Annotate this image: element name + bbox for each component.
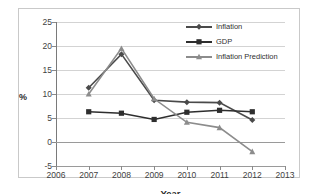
y-axis-tick-label: 25	[43, 17, 52, 27]
legend-marker-diamond-icon	[194, 22, 204, 31]
legend-label: Inflation	[216, 22, 242, 31]
legend-marker-triangle-icon	[194, 52, 204, 61]
x-axis-tick-label: 2009	[145, 170, 164, 180]
legend-key-icon	[186, 52, 212, 61]
data-point-marker	[119, 111, 124, 116]
data-point-marker	[217, 100, 223, 106]
data-point-marker	[217, 108, 222, 113]
x-axis-tick-label: 2007	[79, 170, 98, 180]
x-axis-tick	[154, 166, 155, 170]
data-point-marker	[184, 110, 189, 115]
legend-item-gdp[interactable]: GDP	[186, 35, 317, 48]
series-line	[89, 110, 253, 119]
legend-label: GDP	[216, 37, 232, 46]
data-point-marker	[152, 117, 157, 122]
data-point-marker	[196, 54, 202, 60]
x-axis-tick-label: 2011	[210, 170, 228, 180]
x-axis-title: Year	[56, 188, 285, 194]
x-axis-tick-label: 2010	[177, 170, 196, 180]
chart-legend: InflationGDPInflation Prediction	[186, 20, 317, 65]
legend-marker-square-icon	[194, 37, 204, 46]
legend-item-inflation-prediction[interactable]: Inflation Prediction	[186, 50, 317, 63]
x-axis-tick	[252, 166, 253, 170]
data-point-marker	[196, 24, 202, 30]
plot-area: 20062007200820092010201120122013 Inflati…	[56, 22, 285, 166]
x-axis-tick	[220, 166, 221, 170]
legend-key-icon	[186, 22, 212, 31]
data-point-marker	[196, 39, 201, 44]
x-axis-tick-label: 2008	[112, 170, 131, 180]
y-axis-tick-label: 20	[43, 41, 52, 51]
x-axis-tick-label: 2013	[276, 170, 295, 180]
x-axis-tick	[187, 166, 188, 170]
data-point-marker	[118, 45, 124, 51]
x-axis-tick	[56, 166, 57, 170]
x-axis-tick	[89, 166, 90, 170]
data-point-marker	[184, 99, 190, 105]
chart-figure: -50510152025 % 2006200720082009201020112…	[0, 0, 317, 194]
data-point-marker	[249, 117, 255, 123]
x-axis-tick	[121, 166, 122, 170]
data-point-marker	[250, 109, 255, 114]
y-axis-tick-label: 10	[43, 89, 52, 99]
y-axis-tick-label: 15	[43, 65, 52, 75]
legend-key-icon	[186, 37, 212, 46]
legend-item-inflation[interactable]: Inflation	[186, 20, 317, 33]
x-axis-tick-label: 2006	[47, 170, 66, 180]
x-axis-tick	[285, 166, 286, 170]
data-point-marker	[86, 109, 91, 114]
x-axis-line	[56, 166, 285, 167]
x-axis-tick-label: 2012	[243, 170, 262, 180]
y-axis-title: %	[19, 92, 27, 102]
legend-label: Inflation Prediction	[216, 52, 278, 61]
